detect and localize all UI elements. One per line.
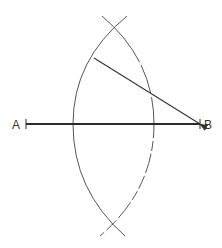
point-label-b: B	[204, 118, 212, 132]
construction-diagram: A B	[0, 0, 222, 248]
radius-arrow	[94, 58, 200, 124]
point-label-a: A	[12, 118, 20, 132]
arc-centered-b	[73, 16, 127, 236]
